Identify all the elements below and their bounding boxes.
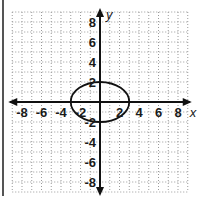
y-tick-label: -6 — [84, 155, 96, 170]
y-tick-label: 4 — [89, 55, 97, 70]
y-tick-label: -8 — [84, 175, 96, 190]
ellipse-chart: -8-6-4-224688642-2-4-6-8xy — [0, 0, 197, 203]
y-tick-label: -2 — [84, 115, 96, 130]
x-tick-label: 8 — [174, 105, 181, 120]
y-tick-label: -4 — [84, 135, 96, 150]
x-tick-label: 2 — [116, 105, 123, 120]
axes — [8, 8, 192, 196]
x-tick-label: -4 — [55, 105, 67, 120]
tick-labels: -8-6-4-224688642-2-4-6-8xy — [16, 7, 197, 190]
x-tick-label: -8 — [16, 105, 28, 120]
y-axis-label: y — [105, 7, 114, 22]
x-tick-label: 6 — [155, 105, 162, 120]
x-axis-label: x — [189, 105, 197, 120]
y-tick-label: 8 — [89, 15, 96, 30]
x-tick-label: 4 — [135, 105, 143, 120]
y-tick-label: 6 — [89, 35, 96, 50]
x-tick-label: -6 — [36, 105, 48, 120]
y-tick-label: 2 — [89, 75, 96, 90]
